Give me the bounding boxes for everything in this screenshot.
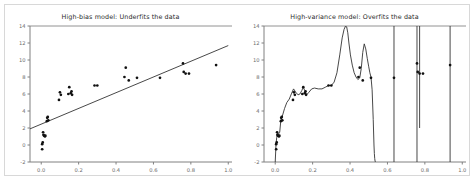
x-tick-label: 0.8 xyxy=(187,167,195,173)
data-point xyxy=(215,64,218,67)
data-point xyxy=(280,116,283,119)
data-point xyxy=(136,77,139,80)
chart-panel-high-variance: High-variance model: Overfits the data -… xyxy=(238,4,471,179)
x-tick-label: 1.0 xyxy=(458,167,466,173)
data-point xyxy=(188,72,191,75)
y-tick-label: 12 xyxy=(19,40,26,46)
x-tick-label: 0.0 xyxy=(271,167,279,173)
data-point xyxy=(293,91,296,94)
chart-panel-high-bias: High-bias model: Underfits the data -202… xyxy=(4,4,237,179)
data-point xyxy=(292,99,295,102)
x-tick-label: 0.6 xyxy=(383,167,391,173)
data-point xyxy=(42,131,45,134)
data-point xyxy=(71,94,74,97)
y-tick-label: 2 xyxy=(22,125,25,131)
x-tick-label: 1.0 xyxy=(224,167,232,173)
y-tick-label: 6 xyxy=(22,91,25,97)
y-tick-label: 0 xyxy=(22,142,25,148)
data-point xyxy=(41,141,44,144)
data-point xyxy=(361,79,364,82)
data-point xyxy=(93,84,96,87)
overfit-curve xyxy=(275,26,375,162)
y-tick-label: -2 xyxy=(254,159,259,165)
data-point xyxy=(275,148,278,151)
data-point xyxy=(276,131,279,134)
data-point xyxy=(370,77,373,80)
data-point xyxy=(67,93,70,96)
x-tick-label: 0.6 xyxy=(149,167,157,173)
data-point xyxy=(123,76,126,79)
x-tick-label: 0.4 xyxy=(346,167,355,173)
data-point xyxy=(59,91,62,94)
data-point xyxy=(422,72,425,75)
data-point xyxy=(327,84,330,87)
plot-area-high-bias: -2024681012140.00.20.40.60.81.0 xyxy=(4,4,237,179)
x-tick-label: 0.8 xyxy=(421,167,429,173)
data-point xyxy=(278,134,281,137)
y-tick-label: 4 xyxy=(256,108,260,114)
data-point xyxy=(70,90,73,93)
y-tick-label: 8 xyxy=(22,74,25,80)
data-point xyxy=(330,84,333,87)
data-point xyxy=(302,86,305,89)
data-point xyxy=(304,90,307,93)
y-tick-label: 6 xyxy=(256,91,259,97)
data-point xyxy=(124,66,127,69)
x-tick-label: 0.2 xyxy=(75,167,83,173)
x-tick-label: 0.2 xyxy=(309,167,317,173)
y-tick-label: -2 xyxy=(20,159,25,165)
data-point xyxy=(159,77,162,80)
y-tick-label: 0 xyxy=(256,142,259,148)
y-tick-label: 12 xyxy=(253,40,260,46)
y-tick-label: 8 xyxy=(256,74,259,80)
data-point xyxy=(449,64,452,67)
data-point xyxy=(184,72,187,75)
data-point xyxy=(96,84,99,87)
data-point xyxy=(182,62,185,65)
data-point xyxy=(301,93,304,96)
y-tick-label: 14 xyxy=(253,23,260,29)
data-point xyxy=(305,94,308,97)
data-point xyxy=(58,99,61,102)
data-point xyxy=(41,148,44,151)
regression-line xyxy=(30,46,228,129)
data-point xyxy=(358,66,361,69)
data-point xyxy=(275,141,278,144)
data-point xyxy=(46,116,49,119)
y-tick-label: 14 xyxy=(19,23,26,29)
data-point xyxy=(44,134,47,137)
data-point xyxy=(127,79,130,82)
y-tick-label: 2 xyxy=(256,125,259,131)
data-point xyxy=(47,119,50,122)
y-tick-label: 4 xyxy=(22,108,26,114)
data-point xyxy=(68,86,71,89)
data-point xyxy=(294,94,297,97)
y-tick-label: 10 xyxy=(19,57,26,63)
data-point xyxy=(393,77,396,80)
matplotlib-figure: High-bias model: Underfits the data -202… xyxy=(0,0,475,183)
data-point xyxy=(418,72,421,75)
x-tick-label: 0.4 xyxy=(112,167,121,173)
data-point xyxy=(357,76,360,79)
data-point xyxy=(416,62,419,65)
y-tick-label: 10 xyxy=(253,57,260,63)
x-tick-label: 0.0 xyxy=(37,167,45,173)
plot-area-high-variance: -2024681012140.00.20.40.60.81.0 xyxy=(238,4,471,179)
data-point xyxy=(281,119,284,122)
data-point xyxy=(60,94,63,97)
